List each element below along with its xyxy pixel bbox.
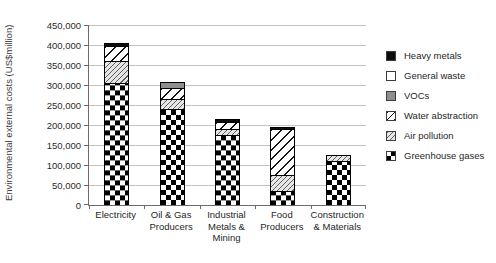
gridline	[89, 25, 366, 26]
legend-label: Heavy metals	[404, 50, 462, 61]
legend-label: Air pollution	[404, 130, 454, 141]
y-tick-mark	[84, 145, 88, 146]
y-tick-mark	[84, 185, 88, 186]
segment-water_abstraction	[161, 88, 184, 99]
legend-swatch-general_waste-icon	[386, 71, 396, 81]
y-tick-label: 400,000	[29, 40, 81, 51]
segment-greenhouse_gases	[105, 83, 128, 205]
gridline	[89, 45, 366, 46]
legend-item-general_waste: General waste	[386, 70, 484, 81]
y-axis-title: Environmental external costs (US$million…	[3, 8, 14, 218]
y-tick-label: 150,000	[29, 140, 81, 151]
legend-label: VOCs	[404, 90, 429, 101]
y-tick-label: 50,000	[29, 180, 81, 191]
segment-air_pollution	[105, 61, 128, 83]
segment-water_abstraction	[105, 46, 128, 60]
legend-swatch-greenhouse_gases-icon	[386, 151, 396, 161]
bar-industrial-metals-mining	[215, 119, 240, 205]
bar-food-producers	[270, 127, 295, 205]
x-axis-label-industrial-metals-mining: IndustrialMetals &Mining	[199, 209, 254, 244]
legend-swatch-vocs-icon	[386, 91, 396, 101]
y-tick-label: 350,000	[29, 60, 81, 71]
legend-label: Greenhouse gases	[404, 150, 484, 161]
y-tick-label: 250,000	[29, 100, 81, 111]
y-tick-mark	[84, 204, 88, 205]
x-tick-mark	[365, 206, 366, 209]
gridline	[89, 65, 366, 66]
y-tick-mark	[84, 125, 88, 126]
legend-item-heavy_metals: Heavy metals	[386, 50, 484, 61]
x-axis-labels: ElectricityOil & GasProducersIndustrialM…	[88, 209, 365, 244]
y-tick-mark	[84, 45, 88, 46]
y-tick-label: 300,000	[29, 80, 81, 91]
segment-air_pollution	[271, 175, 294, 190]
y-tick-mark	[84, 105, 88, 106]
legend-item-greenhouse_gases: Greenhouse gases	[386, 150, 484, 161]
x-axis-label-construction-materials: Construction& Materials	[310, 209, 365, 244]
bar-electricity	[104, 43, 129, 205]
legend: Heavy metalsGeneral wasteVOCsWater abstr…	[386, 50, 484, 170]
y-tick-label: 100,000	[29, 160, 81, 171]
segment-greenhouse_gases	[161, 109, 184, 205]
y-tick-label: 200,000	[29, 120, 81, 131]
segment-water_abstraction	[271, 129, 294, 176]
legend-swatch-air_pollution-icon	[386, 131, 396, 141]
stacked-bar-chart: Environmental external costs (US$million…	[0, 0, 496, 263]
y-tick-label: 0	[29, 200, 81, 211]
x-axis-label-oil-gas-producers: Oil & GasProducers	[143, 209, 198, 244]
x-axis-label-food-producers: FoodProducers	[254, 209, 309, 244]
y-tick-mark	[84, 85, 88, 86]
gridline	[89, 105, 366, 106]
bar-construction-materials	[326, 155, 351, 205]
x-axis-label-electricity: Electricity	[88, 209, 143, 244]
legend-item-vocs: VOCs	[386, 90, 484, 101]
segment-greenhouse_gases	[271, 191, 294, 205]
y-tick-mark	[84, 165, 88, 166]
y-tick-mark	[84, 25, 88, 26]
segment-air_pollution	[161, 99, 184, 109]
segment-greenhouse_gases	[216, 135, 239, 205]
bar-oil-gas-producers	[160, 82, 185, 205]
legend-label: General waste	[404, 70, 465, 81]
y-tick-label: 450,000	[29, 20, 81, 31]
y-tick-mark	[84, 65, 88, 66]
gridline	[89, 85, 366, 86]
plot-area: 050,000100,000150,000200,000250,000300,0…	[88, 25, 366, 206]
segment-water_abstraction	[216, 122, 239, 129]
legend-label: Water abstraction	[404, 110, 478, 121]
legend-item-water_abstraction: Water abstraction	[386, 110, 484, 121]
legend-swatch-water_abstraction-icon	[386, 111, 396, 121]
segment-greenhouse_gases	[327, 161, 350, 205]
legend-swatch-heavy_metals-icon	[386, 51, 396, 61]
legend-item-air_pollution: Air pollution	[386, 130, 484, 141]
